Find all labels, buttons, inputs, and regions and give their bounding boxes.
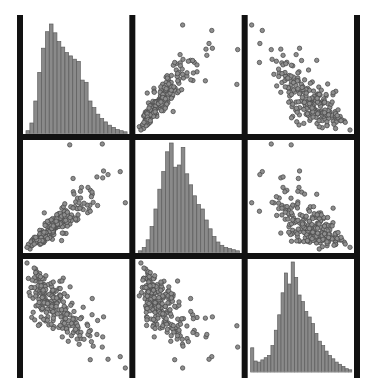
scatter-point xyxy=(169,73,173,77)
scatter-point xyxy=(190,58,194,62)
scatter-point xyxy=(91,200,95,204)
scatter-point xyxy=(258,172,262,176)
scatter-point xyxy=(348,245,352,249)
scatter-point xyxy=(310,236,314,240)
scatter-point xyxy=(31,310,35,314)
scatter-point xyxy=(148,284,152,288)
scatter-point xyxy=(343,242,347,246)
scatter-point xyxy=(175,71,179,75)
scatter-point xyxy=(296,189,300,193)
grid-divider-vertical xyxy=(242,15,248,378)
scatter-point xyxy=(307,209,311,213)
scatter-point xyxy=(205,332,209,336)
scatter-point xyxy=(319,88,323,92)
scatter-point xyxy=(43,223,47,227)
scatter-point xyxy=(249,201,253,205)
scatter-point xyxy=(163,97,167,101)
histogram-bar xyxy=(146,240,150,253)
scatter-point xyxy=(95,318,99,322)
scatter-point xyxy=(311,204,315,208)
scatter-point xyxy=(302,100,306,104)
scatter-point xyxy=(343,120,347,124)
histogram-bar xyxy=(349,370,352,372)
scatter-point xyxy=(322,224,326,228)
grid-divider-horizontal xyxy=(17,134,360,140)
scatter-point xyxy=(73,327,77,331)
scatter-point xyxy=(76,213,80,217)
scatter-point xyxy=(101,315,105,319)
scatter-point xyxy=(71,317,75,321)
scatter-point xyxy=(307,101,311,105)
scatter-point xyxy=(305,238,309,242)
scatter-point xyxy=(294,106,298,110)
scatter-point xyxy=(315,112,319,116)
scatter-point xyxy=(62,321,66,325)
scatter-point xyxy=(148,270,152,274)
scatter-point xyxy=(286,76,290,80)
histogram-bar xyxy=(138,251,142,253)
scatter-point xyxy=(296,227,300,231)
scatter-point xyxy=(178,52,182,56)
scatter-point xyxy=(295,232,299,236)
scatter-point xyxy=(68,215,72,219)
scatter-point xyxy=(296,218,300,222)
histogram-bar xyxy=(318,341,321,372)
scatter-point xyxy=(185,71,189,75)
histogram-bar xyxy=(104,122,108,134)
scatter-point xyxy=(139,128,143,132)
scatter-point xyxy=(58,286,62,290)
scatter-point xyxy=(59,238,63,242)
scatter-point xyxy=(156,316,160,320)
scatter-point xyxy=(311,230,315,234)
scatter-point xyxy=(141,278,145,282)
scatter-point xyxy=(279,231,283,235)
scatter-point xyxy=(191,317,195,321)
scatter-point xyxy=(90,296,94,300)
scatter-point xyxy=(51,309,55,313)
histogram-bar xyxy=(30,123,34,134)
histogram-bar xyxy=(193,196,197,253)
scatter-point xyxy=(315,226,319,230)
scatter-point xyxy=(145,91,149,95)
scatter-point xyxy=(30,278,34,282)
scatter-point xyxy=(65,210,69,214)
histogram-bar xyxy=(49,24,53,134)
histogram-bar xyxy=(170,143,174,253)
scatter-point xyxy=(152,335,156,339)
scatter-point xyxy=(315,58,319,62)
scatter-point xyxy=(172,85,176,89)
panel-r0-c1 xyxy=(132,18,244,137)
scatter-point xyxy=(36,323,40,327)
scatter-point xyxy=(189,78,193,82)
scatter-point xyxy=(152,90,156,94)
histogram-bar xyxy=(274,330,277,372)
scatter-point xyxy=(153,274,157,278)
histogram-bar xyxy=(315,334,318,373)
scatter-point xyxy=(142,120,146,124)
histogram-bar xyxy=(61,47,65,134)
scatter-point xyxy=(118,354,122,358)
panel-r0-c0 xyxy=(20,18,132,137)
scatter-point xyxy=(172,330,176,334)
scatter-point xyxy=(315,96,319,100)
scatter-point xyxy=(235,47,239,51)
scatter-point xyxy=(299,58,303,62)
grid-divider-vertical xyxy=(17,15,23,378)
scatter-point xyxy=(289,116,293,120)
scatter-point xyxy=(77,342,81,346)
panel-r1-c0 xyxy=(20,137,132,256)
scatter-point xyxy=(322,100,326,104)
scatter-point xyxy=(181,57,185,61)
scatter-point xyxy=(100,345,104,349)
scatter-point xyxy=(144,323,148,327)
scatter-point xyxy=(207,41,211,45)
scatter-point xyxy=(69,303,73,307)
scatter-point xyxy=(325,215,329,219)
scatter-point xyxy=(172,358,176,362)
scatter-point xyxy=(177,328,181,332)
grid-divider-vertical xyxy=(354,15,360,378)
scatter-point xyxy=(307,219,311,223)
scatter-point xyxy=(186,339,190,343)
scatter-point xyxy=(58,323,62,327)
scatter-point xyxy=(176,79,180,83)
